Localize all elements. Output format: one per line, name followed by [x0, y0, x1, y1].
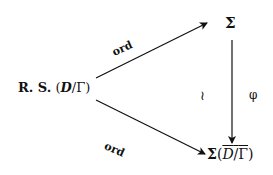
- sigma-label: Σ: [225, 14, 236, 32]
- paren-close: ): [85, 80, 90, 95]
- edge-label-phi: φ: [249, 88, 257, 102]
- sigma-symbol: Σ: [207, 146, 217, 162]
- paren-close: ): [248, 146, 253, 162]
- node-sigma-quotient: Σ(D/Γ): [207, 146, 254, 162]
- gamma-symbol: Γ: [76, 80, 85, 95]
- d-symbol: D: [61, 80, 72, 95]
- edge-label-isomorphism: ≀: [200, 88, 205, 103]
- node-riemann-surface: R. S. (D/Γ): [18, 80, 90, 95]
- rs-label: R. S.: [18, 80, 51, 95]
- node-sigma: Σ: [225, 14, 236, 32]
- d-symbol: D: [222, 146, 233, 162]
- gamma-symbol: Γ: [238, 146, 248, 162]
- paren-open: (: [51, 80, 60, 95]
